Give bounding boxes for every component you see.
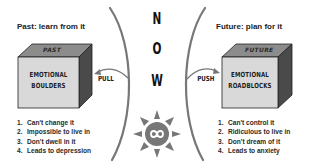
sun-infinity-icon bbox=[133, 110, 181, 158]
now-letter-w: W bbox=[150, 72, 164, 90]
past-cube-line2: BOULDERS bbox=[25, 81, 73, 92]
future-cube-top-label: FUTURE bbox=[245, 46, 273, 53]
future-cube-label: EMOTIONAL ROADBLOCKS bbox=[222, 70, 278, 92]
past-list: 1.Can't change it 2.Impossible to live i… bbox=[17, 118, 91, 156]
now-letter-n: N bbox=[150, 10, 164, 28]
right-arc bbox=[186, 8, 205, 160]
left-arc bbox=[110, 8, 129, 160]
push-arrowhead bbox=[213, 68, 220, 74]
future-cube-line1: EMOTIONAL bbox=[228, 70, 272, 81]
push-label: PUSH bbox=[197, 75, 214, 83]
list-item: 2.Ridiculous to live in bbox=[218, 127, 290, 136]
list-item: 1.Can't change it bbox=[17, 118, 91, 127]
past-cube-top-label: PAST bbox=[43, 46, 61, 53]
list-item: 3.Don't dream of it bbox=[218, 137, 290, 146]
future-list: 1.Can't control it 2.Ridiculous to live … bbox=[218, 118, 290, 156]
list-item: 1.Can't control it bbox=[218, 118, 290, 127]
list-item: 3.Don't dwell in it bbox=[17, 137, 91, 146]
future-cube-line2: ROADBLOCKS bbox=[228, 81, 272, 92]
future-heading: Future: plan for it bbox=[216, 22, 282, 31]
list-item: 2.Impossible to live in bbox=[17, 127, 91, 136]
now-letter-o: O bbox=[150, 40, 164, 58]
past-heading: Past: learn from it bbox=[17, 22, 85, 31]
list-item: 4.Leads to anxiety bbox=[218, 146, 290, 155]
pull-label: PULL bbox=[98, 75, 114, 83]
list-item: 4.Leads to depression bbox=[17, 146, 91, 155]
past-cube-label: EMOTIONAL BOULDERS bbox=[18, 70, 79, 92]
past-cube-line1: EMOTIONAL bbox=[25, 70, 73, 81]
